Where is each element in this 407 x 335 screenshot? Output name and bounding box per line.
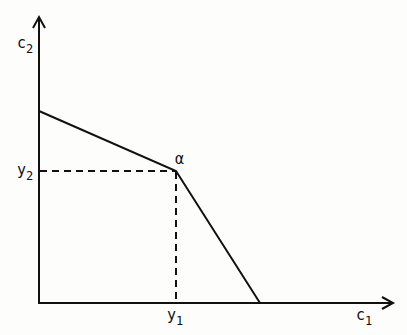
y2-tick-label: y2 (17, 161, 33, 183)
y1-tick-label: y1 (167, 306, 183, 328)
x-axis-label: c1 (356, 306, 372, 328)
y-axis-label: c2 (17, 34, 33, 56)
frontier-line (39, 111, 260, 303)
alpha-point-label: α (175, 150, 184, 168)
diagram-canvas: c2 c1 y2 y1 α (0, 0, 407, 335)
